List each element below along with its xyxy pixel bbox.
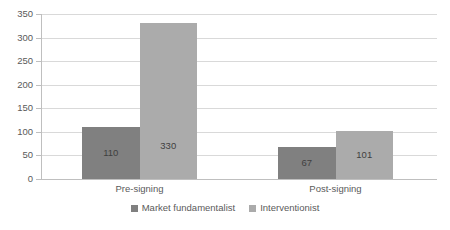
y-axis-tick <box>36 132 41 133</box>
y-axis-tick <box>36 85 41 86</box>
y-axis-tick-label: 0 <box>0 174 33 184</box>
y-axis-tick-label: 200 <box>0 80 33 90</box>
legend-swatch-icon <box>249 205 256 212</box>
bar: 110 <box>82 127 140 179</box>
y-axis-tick <box>36 179 41 180</box>
legend-swatch-icon <box>131 205 138 212</box>
gridline <box>41 108 437 109</box>
y-axis-tick <box>36 61 41 62</box>
bar-chart: 11033067101 050100150200250300350 Market… <box>0 0 450 230</box>
plot-area: 11033067101 <box>41 14 437 179</box>
x-axis-category-label: Pre-signing <box>62 184 217 194</box>
bar: 67 <box>278 147 336 179</box>
y-axis-tick <box>36 38 41 39</box>
gridline <box>41 179 437 180</box>
chart-legend: Market fundamentalistInterventionist <box>0 203 450 213</box>
bar-value-label: 101 <box>336 150 394 160</box>
gridline <box>41 38 437 39</box>
bar-value-label: 330 <box>140 141 198 151</box>
y-axis-tick-label: 100 <box>0 127 33 137</box>
gridline <box>41 85 437 86</box>
bar: 101 <box>336 131 394 179</box>
legend-label: Market fundamentalist <box>142 203 235 213</box>
y-axis-tick-label: 150 <box>0 103 33 113</box>
y-axis-tick <box>36 14 41 15</box>
bar-value-label: 67 <box>278 158 336 168</box>
legend-item[interactable]: Interventionist <box>249 203 319 213</box>
y-axis-tick <box>36 155 41 156</box>
y-axis-tick-label: 50 <box>0 150 33 160</box>
gridline <box>41 14 437 15</box>
legend-item[interactable]: Market fundamentalist <box>131 203 235 213</box>
y-axis-tick-label: 350 <box>0 9 33 19</box>
x-axis-category-label: Post-signing <box>258 184 413 194</box>
bar: 330 <box>140 23 198 179</box>
gridline <box>41 61 437 62</box>
legend-label: Interventionist <box>260 203 319 213</box>
y-axis-tick <box>36 108 41 109</box>
bar-value-label: 110 <box>82 148 140 158</box>
y-axis-tick-label: 300 <box>0 33 33 43</box>
y-axis-tick-label: 250 <box>0 56 33 66</box>
y-axis-line <box>41 14 42 180</box>
